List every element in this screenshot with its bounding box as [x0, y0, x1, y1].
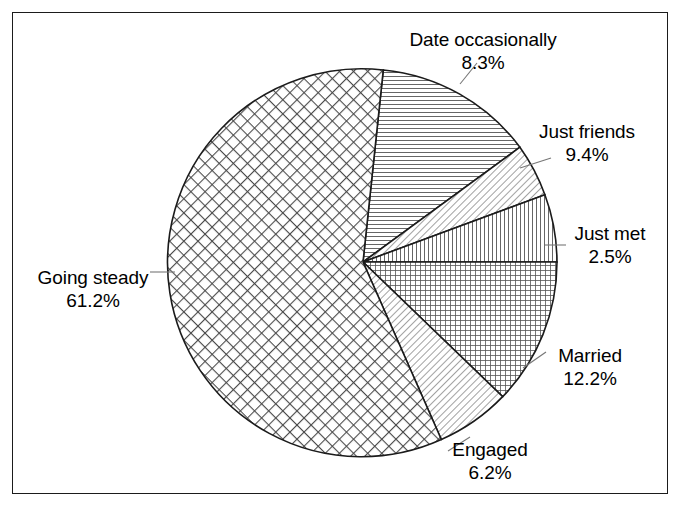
slice-label-married-name: Married	[558, 345, 622, 366]
slice-label-engaged: Engaged 6.2%	[410, 438, 570, 484]
slice-label-just-friends-name: Just friends	[539, 121, 635, 142]
slice-label-going-steady-value: 61.2%	[8, 289, 178, 312]
slice-label-date-occasionally-value: 8.3%	[393, 51, 573, 74]
slice-label-just-met-value: 2.5%	[550, 245, 670, 268]
slice-label-just-met-name: Just met	[575, 223, 646, 244]
slice-label-engaged-value: 6.2%	[410, 461, 570, 484]
slice-label-date-occasionally-name: Date occasionally	[409, 29, 556, 50]
slice-label-engaged-name: Engaged	[452, 439, 527, 460]
slice-label-going-steady: Going steady 61.2%	[8, 266, 178, 312]
slice-label-just-friends-value: 9.4%	[512, 143, 662, 166]
slice-label-just-met: Just met 2.5%	[550, 222, 670, 268]
slice-label-married: Married 12.2%	[520, 344, 660, 390]
slice-label-married-value: 12.2%	[520, 367, 660, 390]
slice-label-going-steady-name: Going steady	[38, 267, 149, 288]
slice-label-just-friends: Just friends 9.4%	[512, 120, 662, 166]
slice-label-date-occasionally: Date occasionally 8.3%	[393, 28, 573, 74]
pie-chart-figure: Date occasionally 8.3% Just friends 9.4%…	[0, 0, 681, 516]
